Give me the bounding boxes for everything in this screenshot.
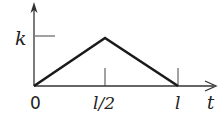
end-label: l	[175, 93, 180, 113]
origin-label: 0	[30, 93, 41, 113]
x-axis-label: t	[207, 92, 215, 113]
triangle-curve	[34, 38, 178, 86]
triangle-pulse-diagram: k 0 l/2 l t	[0, 0, 224, 121]
y-axis-label: k	[15, 27, 27, 49]
mid-label: l/2	[93, 93, 115, 113]
